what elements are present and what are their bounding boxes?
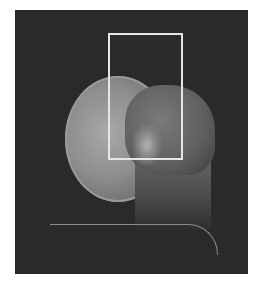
xray-image <box>15 10 248 274</box>
table-edge-line <box>50 224 190 225</box>
region-of-interest-box[interactable] <box>108 33 183 160</box>
table-edge-curve <box>187 224 218 255</box>
